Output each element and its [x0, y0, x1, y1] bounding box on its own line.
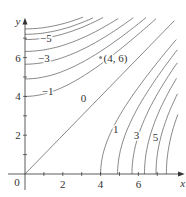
origin-label: 0: [14, 176, 20, 188]
y-axis-arrow-icon: [23, 18, 28, 25]
contour-positive: [166, 115, 177, 175]
contour-label: −1: [42, 85, 54, 97]
point-marker: [99, 56, 102, 59]
contour-label: −5: [40, 32, 52, 44]
y-tick-label: 6: [15, 52, 21, 64]
contour-label: 1: [113, 123, 119, 135]
y-axis-label: y: [15, 15, 21, 27]
contour-label: 3: [134, 129, 140, 141]
contour-positive: [144, 78, 176, 174]
x-tick-label: 2: [60, 178, 66, 190]
x-axis-arrow-icon: [178, 172, 185, 177]
contour-positive: [118, 50, 178, 174]
contour-map: 2462460xy0135−1−3−5(4, 6): [0, 0, 186, 197]
contour-label: 0: [81, 92, 87, 104]
y-tick-label: 4: [15, 90, 21, 102]
y-tick-label: 2: [15, 129, 21, 141]
labels: 2462460xy0135−1−3−5(4, 6): [14, 15, 185, 190]
x-tick-label: 6: [136, 178, 142, 190]
contour-positive: [132, 63, 177, 174]
contour-label: 5: [153, 131, 159, 143]
contour-negative: [25, 18, 93, 35]
contour-negative: [25, 17, 83, 29]
x-axis-label: x: [179, 177, 185, 189]
contour-label: −3: [38, 52, 50, 64]
point-label: (4, 6): [104, 52, 128, 65]
x-tick-label: 4: [98, 178, 104, 190]
